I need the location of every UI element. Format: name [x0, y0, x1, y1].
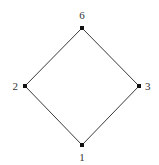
- edge-6-3: [82, 28, 139, 86]
- edge-3-1: [82, 86, 139, 145]
- node-3: [137, 84, 141, 88]
- edge-2-1: [25, 86, 82, 145]
- edges-group: [25, 28, 139, 145]
- node-label-2: 2: [13, 80, 19, 92]
- node-1: [80, 143, 84, 147]
- node-2: [23, 84, 27, 88]
- nodes-group: [23, 26, 141, 147]
- labels-group: 6231: [13, 9, 152, 163]
- edge-6-2: [25, 28, 82, 86]
- node-label-6: 6: [79, 9, 85, 21]
- hasse-diagram: 6231: [0, 0, 159, 165]
- node-6: [80, 26, 84, 30]
- node-label-1: 1: [79, 151, 85, 163]
- node-label-3: 3: [145, 80, 151, 92]
